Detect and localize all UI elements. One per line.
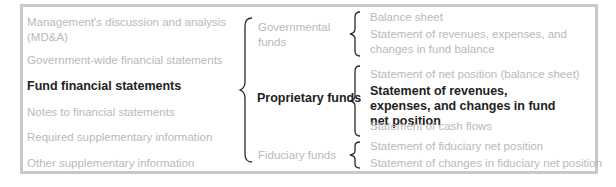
left-item-mdna: Management's discussion and analysis (MD… bbox=[27, 15, 232, 45]
fiduciary-brace-icon bbox=[350, 142, 366, 168]
middle-item-governmental-funds: Governmental funds bbox=[258, 20, 348, 50]
left-item-fund-financial-statements: Fund financial statements bbox=[27, 79, 181, 94]
middle-item-fiduciary-funds: Fiduciary funds bbox=[258, 148, 336, 163]
statement-changes-fiduciary-net-position: Statement of changes in fiduciary net po… bbox=[370, 156, 602, 171]
statement-net-position: Statement of net position (balance sheet… bbox=[370, 67, 580, 82]
left-item-required-supplementary: Required supplementary information bbox=[27, 130, 212, 145]
governmental-brace-icon bbox=[350, 12, 366, 56]
statement-revenues-fund-balance: Statement of revenues, expenses, and cha… bbox=[370, 27, 600, 57]
left-item-government-wide: Government-wide financial statements bbox=[27, 53, 223, 68]
statement-balance-sheet: Balance sheet bbox=[370, 10, 443, 25]
statement-fiduciary-net-position: Statement of fiduciary net position bbox=[370, 139, 543, 154]
left-item-notes: Notes to financial statements bbox=[27, 105, 175, 120]
middle-item-proprietary-funds: Proprietary funds bbox=[257, 91, 361, 106]
statement-cash-flows: Statement of cash flows bbox=[370, 119, 492, 134]
left-item-other-supplementary: Other supplementary information bbox=[27, 156, 194, 171]
proprietary-brace-icon bbox=[350, 66, 366, 136]
